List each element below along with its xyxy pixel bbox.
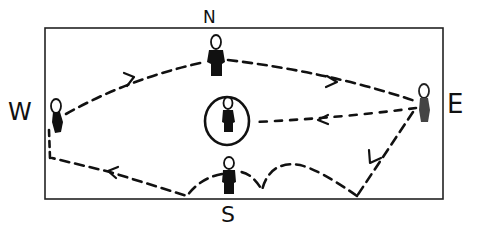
compass-label-south: S [221,204,235,226]
compass-label-east: E [447,91,463,117]
figure-west-icon [51,99,63,133]
path-east-to-center [256,108,416,122]
arrow-icon [124,73,134,86]
compass-label-north: N [203,9,216,26]
figure-center-icon [222,97,235,132]
path-south-to-west [52,158,222,196]
path-west-vertical [49,130,50,158]
path-north-to-east [228,60,418,102]
path-west-to-north [66,62,205,114]
figure-south-icon [222,157,236,194]
figure-east-icon [419,84,430,122]
diagram-canvas: N S W E [0,0,477,237]
diagram-svg [0,0,477,237]
path-east-down [357,112,413,196]
figure-north-icon [207,35,225,76]
path-bumps-to-south [236,164,357,196]
arrow-icon [318,115,328,124]
compass-label-west: W [8,100,32,124]
